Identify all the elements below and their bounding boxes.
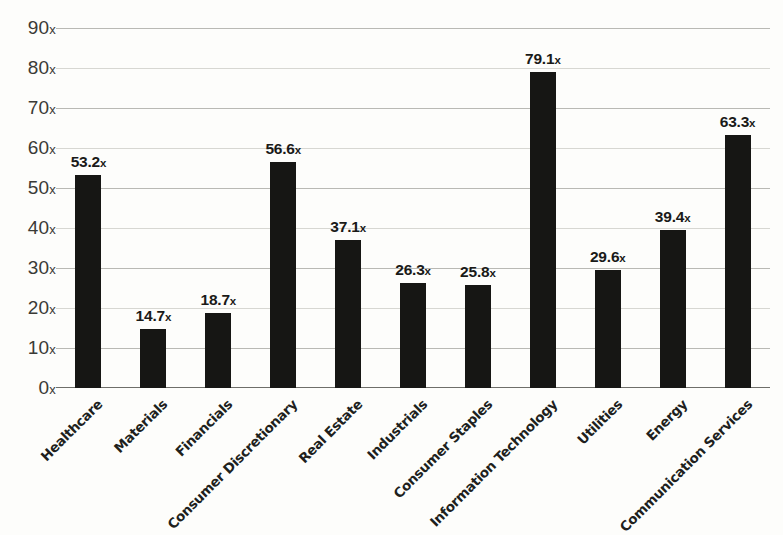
y-axis-tick-label: 60x	[0, 137, 56, 159]
bar-value-label: 39.4x	[655, 208, 691, 226]
bar-value-label: 18.7x	[200, 291, 236, 309]
y-axis-tick-label: 40x	[0, 217, 56, 239]
bars-layer: 53.2x14.7x18.7x56.6x37.1x26.3x25.8x79.1x…	[56, 28, 770, 388]
x-axis-labels: HealthcareMaterialsFinancialsConsumer Di…	[56, 392, 770, 514]
y-axis-tick-label: 90x	[0, 17, 56, 39]
y-axis-tick-label: 0x	[0, 377, 56, 399]
y-axis-tick-label: 30x	[0, 257, 56, 279]
y-axis-tick-label: 80x	[0, 57, 56, 79]
y-axis-tick-label: 10x	[0, 337, 56, 359]
bar-rect	[725, 135, 751, 388]
bar-value-label: 63.3x	[720, 113, 756, 131]
bar-rect	[465, 285, 491, 388]
bar-value-label: 79.1x	[525, 50, 561, 68]
bar-rect	[75, 175, 101, 388]
bar-value-label: 29.6x	[590, 248, 626, 266]
bar-value-label: 53.2x	[71, 153, 107, 171]
y-axis-tick-label: 20x	[0, 297, 56, 319]
y-axis-tick-label: 70x	[0, 97, 56, 119]
bar-value-label: 25.8x	[460, 263, 496, 281]
bar-value-label: 56.6x	[265, 140, 301, 158]
bar-value-label: 37.1x	[330, 218, 366, 236]
plot-area: 53.2x14.7x18.7x56.6x37.1x26.3x25.8x79.1x…	[56, 28, 770, 388]
bar-value-label: 14.7x	[136, 307, 172, 325]
y-axis-tick-label: 50x	[0, 177, 56, 199]
